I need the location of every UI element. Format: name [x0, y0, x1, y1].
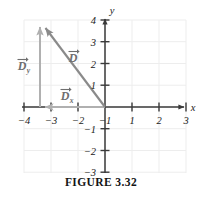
x-axis-label: x: [190, 102, 196, 113]
vector-d: [46, 28, 106, 107]
figure-container: −4 −3 −2 −1 1 2 3 4 3 2 1 −1 −2 −3 x y: [0, 0, 202, 198]
y-tick-label-1: 1: [91, 80, 96, 91]
y-tick-label-4: 4: [91, 15, 97, 26]
x-tick-label-1: 1: [129, 115, 134, 126]
vector-dx-label-sub: x: [69, 96, 74, 105]
vector-dx-label: D x: [60, 87, 74, 105]
x-tick-label-neg1: −1: [99, 115, 111, 126]
vector-dy-label-sub: y: [26, 66, 31, 75]
x-tick-label-3: 3: [182, 115, 188, 126]
x-tick-label-neg4: −4: [18, 115, 31, 126]
y-tick-labels: 4 3 2 1 −1 −2 −3: [84, 15, 97, 178]
y-axis-label: y: [109, 5, 115, 16]
vector-dy-label-text: D: [17, 59, 27, 73]
plot-area: −4 −3 −2 −1 1 2 3 4 3 2 1 −1 −2 −3 x y: [0, 0, 202, 178]
vector-dx-label-text: D: [60, 89, 70, 103]
vector-d-label-text: D: [68, 51, 78, 65]
y-tick-label-neg1: −1: [84, 124, 96, 135]
vector-dy-label: D y: [17, 57, 31, 75]
y-tick-label-3: 3: [90, 37, 96, 48]
y-tick-label-neg2: −2: [84, 146, 97, 157]
y-tick-label-2: 2: [91, 59, 97, 70]
vector-d-shaft: [46, 28, 106, 107]
x-tick-labels: −4 −3 −2 −1 1 2 3: [18, 115, 189, 126]
x-tick-label-2: 2: [156, 115, 162, 126]
figure-caption: FIGURE 3.32: [0, 176, 202, 188]
coordinate-plot: −4 −3 −2 −1 1 2 3 4 3 2 1 −1 −2 −3 x y: [0, 0, 202, 178]
x-tick-label-neg3: −3: [45, 115, 57, 126]
